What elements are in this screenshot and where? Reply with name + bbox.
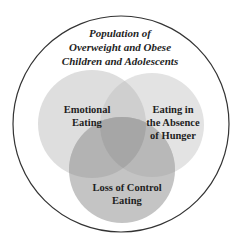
venn-diagram: Population of Overweight and Obese Child…: [0, 0, 237, 248]
diagram-title: Population of Overweight and Obese Child…: [40, 26, 200, 68]
loss-of-control-label: Loss of Control Eating: [82, 181, 172, 207]
label-line: Loss of Control: [82, 181, 172, 194]
label-line: Emotional: [52, 103, 122, 116]
title-line-2: Overweight and Obese: [40, 40, 200, 54]
title-line-1: Population of: [40, 26, 200, 40]
label-line: Eating: [52, 116, 122, 129]
label-line: Eating in: [138, 103, 208, 116]
emotional-eating-label: Emotional Eating: [52, 103, 122, 129]
absence-of-hunger-label: Eating in the Absence of Hunger: [138, 103, 208, 142]
title-line-3: Children and Adolescents: [40, 54, 200, 68]
label-line: the Absence: [138, 116, 208, 129]
label-line: of Hunger: [138, 129, 208, 142]
label-line: Eating: [82, 194, 172, 207]
